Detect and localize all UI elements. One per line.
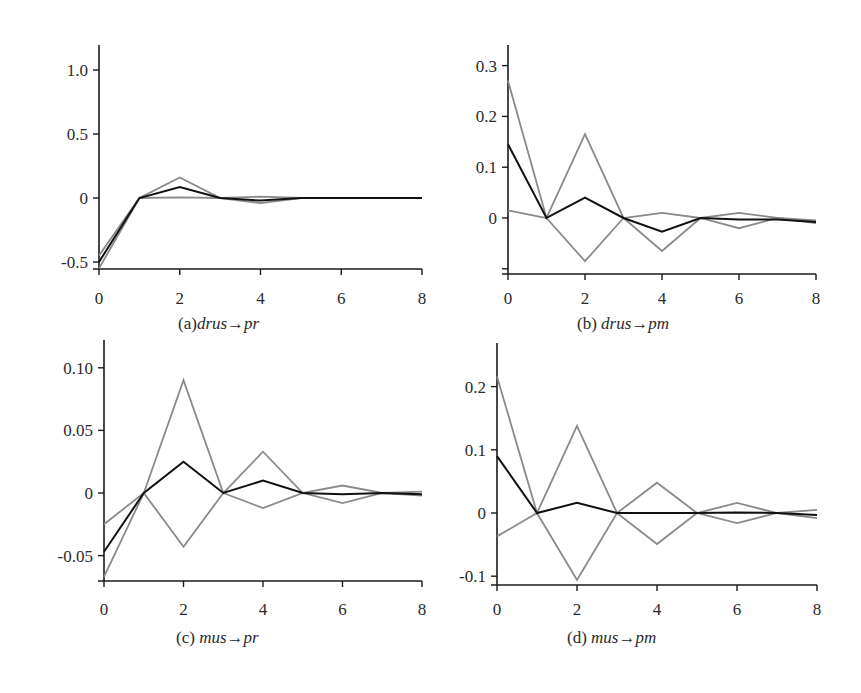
y-tick-label: -0.5 [61,253,88,272]
series-estimate [508,144,816,231]
caption-a: (a)drus→pr [178,314,259,334]
y-tick-label: 0.05 [63,421,93,440]
caption-c: (c) mus→pr [176,628,259,648]
caption-c-text: mus→pr [199,628,259,647]
x-tick-label: 6 [337,289,346,308]
x-tick-label: 2 [179,600,188,619]
x-tick-label: 6 [338,600,347,619]
x-tick-label: 0 [95,289,104,308]
series-estimate [497,456,817,515]
axes-a: -0.500.51.002468 [61,45,426,308]
caption-d: (d) mus→pm [567,628,656,648]
x-tick-label: 2 [176,289,185,308]
x-tick-label: 2 [573,600,582,619]
x-tick-label: 4 [653,600,662,619]
x-tick-label: 4 [658,289,667,308]
y-tick-label: 1.0 [67,61,88,80]
y-tick-label: 0.1 [476,158,497,177]
x-tick-label: 2 [581,289,590,308]
x-tick-label: 0 [100,600,109,619]
caption-d-prefix: (d) [567,628,591,647]
caption-d-text: mus→pm [591,628,656,647]
y-tick-label: 0.10 [63,359,93,378]
y-tick-label: -0.1 [459,567,486,586]
x-tick-label: 6 [735,289,744,308]
y-tick-label: 0 [80,189,89,208]
caption-c-prefix: (c) [176,628,199,647]
y-tick-label: 0.2 [465,378,486,397]
y-tick-label: 0.2 [476,107,497,126]
y-tick-label: 0 [478,504,487,523]
series-lower-bound [497,513,817,580]
subplot-a: -0.500.51.002468 [61,45,426,308]
series-estimate [104,462,422,552]
x-tick-label: 4 [256,289,265,308]
axes-b: 00.10.20.302468 [476,45,821,308]
subplot-d: -0.100.10.202468 [459,343,821,619]
y-tick-label: 0 [489,209,498,228]
x-tick-label: 6 [733,600,742,619]
x-tick-label: 4 [259,600,268,619]
series-lower-bound [99,197,422,268]
series-lower-bound [104,493,422,577]
plots-canvas: -0.500.51.002468 00.10.20.302468 -0.0500… [0,0,861,693]
caption-b-prefix: (b) [577,314,601,333]
y-tick-label: 0.1 [465,441,486,460]
x-tick-label: 0 [504,289,513,308]
caption-a-prefix: (a) [178,314,197,333]
x-tick-label: 8 [812,289,821,308]
axes-c: -0.0500.050.1002468 [58,340,427,619]
caption-b: (b) drus→pm [577,314,669,334]
y-tick-label: 0 [85,484,94,503]
figure: -0.500.51.002468 00.10.20.302468 -0.0500… [0,0,861,693]
series-upper-bound [497,377,817,514]
subplot-b: 00.10.20.302468 [476,45,821,308]
series-lower-bound [508,210,816,261]
caption-b-text: drus→pm [601,314,669,333]
x-tick-label: 8 [813,600,822,619]
y-tick-label: -0.05 [58,547,93,566]
y-tick-label: 0.5 [67,125,88,144]
x-tick-label: 0 [493,600,502,619]
series-upper-bound [99,178,422,256]
subplot-c: -0.0500.050.1002468 [58,340,427,619]
x-tick-label: 8 [418,289,427,308]
x-tick-label: 8 [418,600,427,619]
caption-a-text: drus→pr [197,314,259,333]
y-tick-label: 0.3 [476,57,497,76]
